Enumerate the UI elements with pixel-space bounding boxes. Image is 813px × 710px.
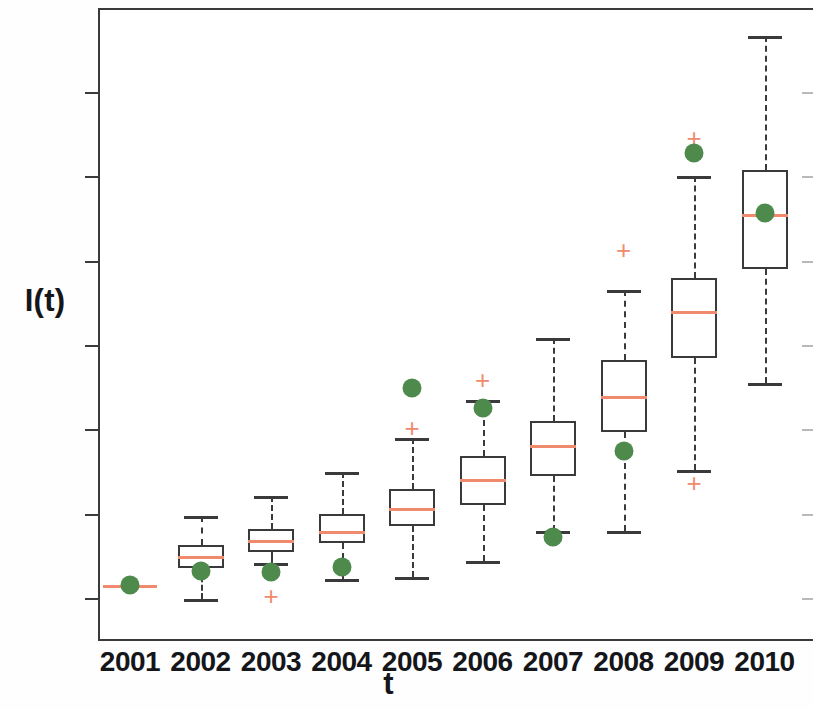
y-tick-0 — [85, 598, 98, 600]
upper-whisker-line — [201, 516, 203, 545]
y-tick-right-400 — [802, 261, 813, 263]
y-tick-right-200 — [802, 429, 813, 431]
x-tick-label-2005: 2005 — [382, 648, 442, 676]
upper-whisker-cap — [325, 472, 359, 475]
x-tick-label-2008: 2008 — [593, 648, 653, 676]
x-tick-label-2004: 2004 — [311, 648, 371, 676]
median-line — [389, 508, 435, 511]
x-tick-label-2002: 2002 — [170, 648, 230, 676]
x-tick-label-2007: 2007 — [523, 648, 583, 676]
median-line — [460, 479, 506, 482]
observed-point-2010 — [755, 204, 774, 223]
lower-whisker-line — [271, 552, 273, 563]
upper-whisker-cap — [536, 338, 570, 341]
observed-point-2006 — [473, 399, 492, 418]
lower-whisker-cap — [466, 561, 500, 564]
y-tick-right-600 — [802, 92, 813, 94]
y-tick-500 — [85, 176, 98, 178]
y-tick-100 — [85, 514, 98, 516]
lower-whisker-line — [412, 526, 414, 577]
upper-whisker-line — [624, 290, 626, 360]
y-tick-300 — [85, 345, 98, 347]
median-line — [319, 531, 365, 534]
lower-whisker-line — [483, 505, 485, 561]
upper-whisker-cap — [254, 496, 288, 499]
x-tick-label-2003: 2003 — [241, 648, 301, 676]
median-line — [248, 540, 294, 543]
upper-whisker-line — [342, 472, 344, 514]
y-axis-title: I(t) — [2, 285, 88, 316]
observed-point-2001 — [121, 576, 140, 595]
upper-whisker-line — [553, 338, 555, 421]
upper-whisker-cap — [748, 36, 782, 39]
observed-point-2002 — [191, 562, 210, 581]
y-tick-600 — [85, 92, 98, 94]
y-tick-right-100 — [802, 514, 813, 516]
y-tick-200 — [85, 429, 98, 431]
upper-whisker-line — [694, 176, 696, 279]
x-tick-label-2006: 2006 — [452, 648, 512, 676]
x-tick-label-2009: 2009 — [664, 648, 724, 676]
observed-point-2003 — [262, 562, 281, 581]
lower-whisker-cap — [607, 531, 641, 534]
x-tick-label-2010: 2010 — [734, 648, 794, 676]
lower-whisker-line — [553, 476, 555, 532]
observed-point-2008 — [614, 442, 633, 461]
box — [319, 514, 365, 544]
lower-whisker-line — [694, 358, 696, 470]
observed-point-2005 — [403, 379, 422, 398]
chart-root: I(t) 0100200300400500600++++++ t 2001200… — [0, 0, 813, 710]
upper-whisker-cap — [607, 290, 641, 293]
median-line — [671, 311, 717, 314]
y-tick-right-300 — [802, 345, 813, 347]
lower-whisker-cap — [748, 383, 782, 386]
lower-whisker-line — [765, 269, 767, 383]
upper-whisker-line — [271, 496, 273, 529]
lower-whisker-cap — [325, 579, 359, 582]
box — [671, 278, 717, 357]
y-tick-right-500 — [802, 176, 813, 178]
median-line — [178, 556, 224, 559]
lower-whisker-cap — [184, 599, 218, 602]
lower-whisker-cap — [395, 577, 429, 580]
y-tick-right-0 — [802, 598, 813, 600]
plot-area: 0100200300400500600++++++ — [98, 8, 813, 641]
median-line — [530, 445, 576, 448]
upper-whisker-line — [765, 36, 767, 171]
upper-whisker-line — [412, 438, 414, 489]
x-tick-label-2001: 2001 — [100, 648, 160, 676]
y-tick-400 — [85, 261, 98, 263]
upper-whisker-cap — [184, 516, 218, 519]
observed-point-2009 — [685, 143, 704, 162]
upper-whisker-cap — [677, 176, 711, 179]
observed-point-2004 — [332, 557, 351, 576]
observed-point-2007 — [544, 528, 563, 547]
median-line — [601, 396, 647, 399]
